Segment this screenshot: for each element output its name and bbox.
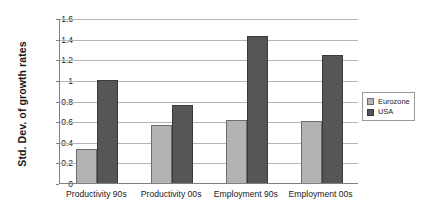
y-axis-title: Std. Dev. of growth rates [16,14,28,194]
legend-item-eurozone[interactable]: Eurozone [367,98,410,105]
bar-chart: Std. Dev. of growth rates 1.61.41.210.80… [0,0,436,222]
legend-swatch-icon [367,98,374,105]
bar-group [135,19,210,183]
bars-layer [60,19,358,183]
bar-usa[interactable] [97,80,118,183]
bar-group [210,19,285,183]
y-axis-tick-mark [56,184,59,185]
bar-group [284,19,359,183]
bar-usa[interactable] [172,105,193,183]
x-axis-label: Employment 90s [214,189,278,199]
bar-usa[interactable] [247,36,268,183]
x-axis-label: Productivity 00s [141,189,202,199]
legend-label: USA [378,108,393,115]
bar-eurozone[interactable] [151,125,172,183]
legend: Eurozone USA [362,92,415,121]
x-axis-label: Employment 00s [289,189,353,199]
bar-usa[interactable] [322,55,343,183]
bar-eurozone[interactable] [226,120,247,183]
bar-eurozone[interactable] [301,121,322,183]
plot-area [59,19,358,184]
legend-label: Eurozone [378,98,410,105]
bar-group [60,19,135,183]
gridline [60,184,358,185]
bar-eurozone[interactable] [76,149,97,183]
legend-item-usa[interactable]: USA [367,108,410,115]
x-axis-label: Productivity 90s [66,189,127,199]
legend-swatch-icon [367,109,374,116]
